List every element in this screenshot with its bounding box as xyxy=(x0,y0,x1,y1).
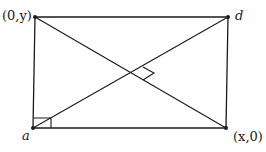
label-bottom-left: a xyxy=(22,128,30,143)
label-bottom-right: (x,0) xyxy=(233,129,263,144)
left-edge xyxy=(33,17,35,128)
diagonal-bottom-left-to-top-right xyxy=(33,17,228,128)
right-angle-mark-intersection xyxy=(143,67,154,80)
vertex-top-left xyxy=(33,15,37,19)
rectangle-diagonals-diagram: (0,y) d a (x,0) xyxy=(0,0,266,152)
vertex-bottom-right xyxy=(224,126,228,130)
right-edge xyxy=(226,17,228,128)
vertex-top-right xyxy=(226,15,230,19)
vertex-bottom-left xyxy=(31,126,35,130)
label-top-left: (0,y) xyxy=(2,8,32,23)
label-top-right: d xyxy=(235,8,243,23)
